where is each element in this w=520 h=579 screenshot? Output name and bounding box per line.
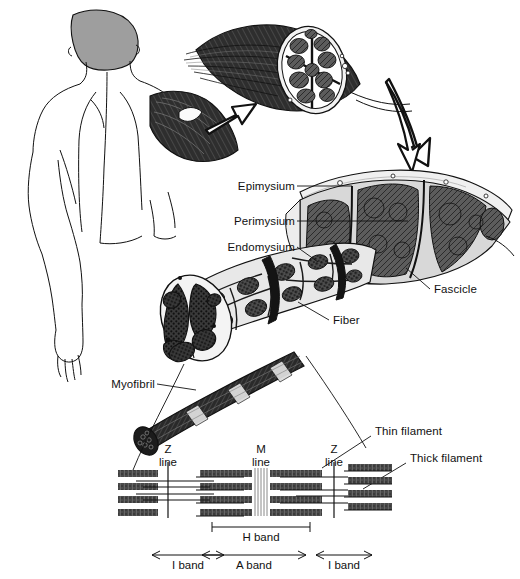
i-band-right-arrow [316,551,372,559]
label-z-line-left: Z line [159,443,177,469]
myofibril-illustration [129,352,304,459]
z-line-right-word2: line [325,456,343,468]
label-endomysium: Endomysium [228,241,295,253]
label-fiber: Fiber [333,314,360,326]
z-line-left-word1: Z [164,443,171,455]
label-thick-filament: Thick filament [410,452,482,464]
z-line-right-word1: Z [330,443,337,455]
label-h-band: H band [242,531,279,544]
sarcomere-diagram [118,462,392,559]
label-thin-filament: Thin filament [375,425,442,437]
label-i-band-right: I band [328,559,360,572]
label-epimysium: Epimysium [238,180,295,192]
human-figure-illustration [28,10,176,382]
m-line-word2: line [252,456,270,468]
m-line [255,468,267,516]
in-situ-muscle [150,91,256,161]
muscle-fiber-illustration [148,243,376,371]
label-perimysium: Perimysium [234,215,295,227]
label-m-line: M line [252,443,270,469]
z-line-left-word2: line [159,456,177,468]
label-z-line-right: Z line [325,443,343,469]
figure-canvas: Epimysium Perimysium Endomysium Fascicle… [0,0,520,579]
label-a-band: A band [236,559,272,572]
label-i-band-left: I band [172,559,204,572]
label-fascicle: Fascicle [434,283,477,295]
zoom-arrow-large [386,79,430,172]
m-line-word1: M [256,443,266,455]
label-myofibril: Myofibril [111,378,155,390]
whole-muscle-illustration [184,19,412,121]
